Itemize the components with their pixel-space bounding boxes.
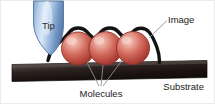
label-molecules: Molecules xyxy=(80,88,123,99)
spm-schematic-figure: Tip Image Substrate Molecules xyxy=(0,0,215,104)
label-image: Image xyxy=(168,14,194,25)
molecules-group xyxy=(62,32,150,66)
label-substrate: Substrate xyxy=(163,81,204,92)
label-tip: Tip xyxy=(42,20,55,31)
molecule-sphere-3 xyxy=(117,32,150,65)
